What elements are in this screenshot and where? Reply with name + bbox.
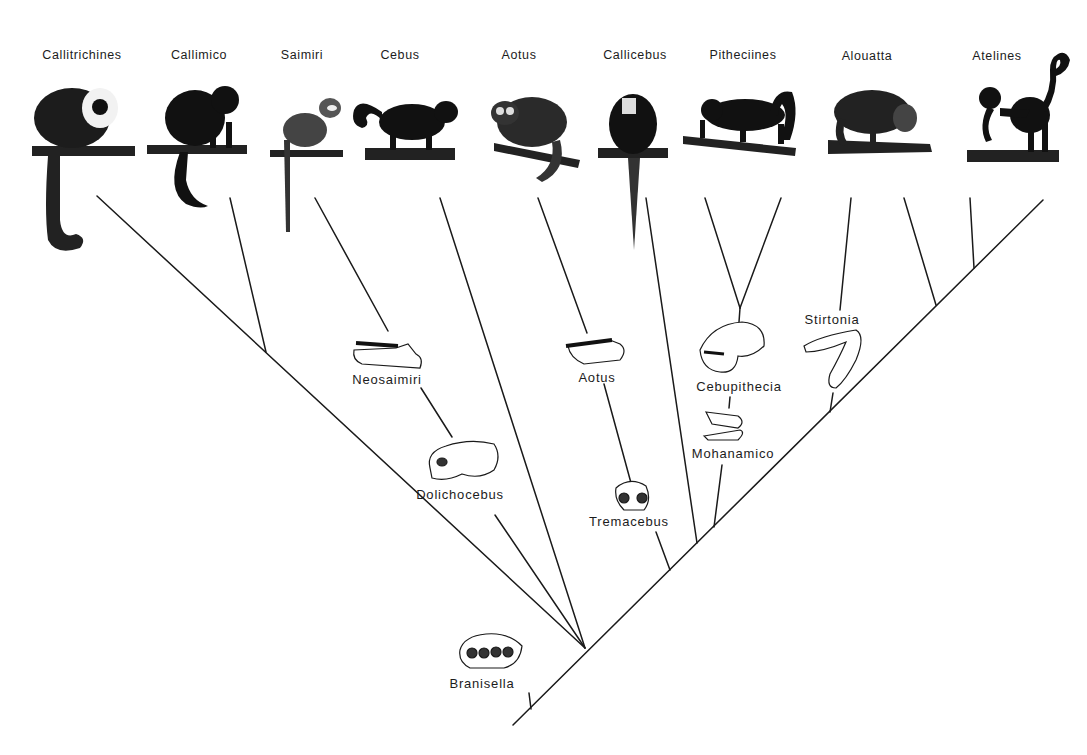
branch-aotus-tremacebus	[604, 384, 631, 483]
branch-callimico	[230, 198, 266, 352]
callicebus-illustration	[598, 94, 668, 250]
saimiri-illustration	[270, 98, 343, 232]
fossil-label-stirtonia: Stirtonia	[805, 312, 860, 327]
branch-mohanamico-stem	[714, 465, 722, 527]
taxon-label-atelines: Atelines	[972, 49, 1021, 63]
fossil-label-tremacebus: Tremacebus	[589, 514, 669, 529]
phylogeny-branches	[0, 0, 1087, 755]
branisella-teeth-icon	[460, 634, 522, 668]
aotus-fossil-jaw-icon	[566, 340, 624, 364]
fossil-label-cebupithecia: Cebupithecia	[696, 379, 782, 394]
branch-dolichocebus-root	[495, 515, 585, 648]
cebupithecia-skull-icon	[700, 322, 764, 372]
branch-ateline-a	[904, 198, 936, 305]
taxon-label-callicebus: Callicebus	[603, 48, 667, 62]
fossil-label-neosaimiri: Neosaimiri	[352, 372, 421, 387]
fossil-label-mohanamico: Mohanamico	[692, 446, 774, 461]
branch-ateline-b	[970, 198, 974, 268]
taxon-label-saimiri: Saimiri	[281, 48, 323, 62]
branch-neosaimiri-dolichocebus	[421, 388, 452, 437]
tremacebus-skull-icon	[616, 481, 649, 510]
branch-cebupithecia-mohanamico	[729, 397, 730, 408]
atelines-illustration	[967, 53, 1070, 162]
dolichocebus-skull-icon	[429, 441, 498, 479]
aotus-illustration	[491, 97, 580, 182]
pitheciines-illustration	[683, 91, 796, 156]
mohanamico-jaw-icon	[704, 412, 743, 440]
callimico-illustration	[147, 86, 247, 208]
branch-pitheciines-a	[705, 198, 740, 308]
taxon-label-alouatta: Alouatta	[842, 49, 893, 63]
fossil-label-branisella: Branisella	[449, 676, 514, 691]
cebus-illustration	[353, 101, 458, 160]
callitrichines-illustration	[32, 88, 135, 251]
fossil-label-dolichocebus: Dolichocebus	[416, 487, 504, 502]
branch-pitheciines-stem	[739, 308, 740, 322]
alouatta-illustration	[828, 90, 932, 154]
branch-tremacebus-stem	[656, 532, 670, 570]
branch-branisella	[529, 693, 531, 709]
branch-callicebus	[646, 198, 697, 543]
taxon-label-aotus: Aotus	[502, 48, 537, 62]
taxon-label-callimico: Callimico	[171, 48, 227, 62]
neosaimiri-jaw-icon	[354, 343, 422, 368]
taxon-label-callitrichines: Callitrichines	[42, 48, 121, 62]
branch-saimiri	[315, 198, 388, 331]
stirtonia-jaw-icon	[804, 330, 861, 388]
taxon-label-pitheciines: Pitheciines	[709, 48, 776, 62]
branch-aotus	[538, 198, 587, 333]
taxon-label-cebus: Cebus	[380, 48, 419, 62]
animal-illustrations	[32, 53, 1070, 251]
main-stem	[513, 200, 1043, 725]
branch-alouatta	[840, 198, 851, 310]
branch-pitheciines-b	[740, 198, 781, 308]
fossil-label-aotus: Aotus	[578, 370, 615, 385]
